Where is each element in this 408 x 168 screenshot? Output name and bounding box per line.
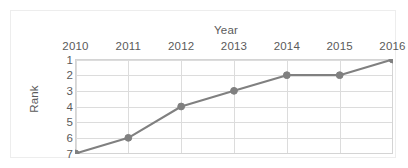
y-axis-tick-labels: 1234567 [55,51,73,161]
plot-area [75,59,393,154]
y-tick-label: 5 [67,115,73,129]
y-tick-label: 3 [67,84,73,98]
data-point-marker [75,150,79,154]
data-point-marker [389,59,393,63]
y-tick-label: 1 [67,53,73,67]
x-tick-label: 2015 [317,40,363,52]
data-point-marker [283,72,290,79]
x-axis-tick-labels: 2010201120122013201420152016 [47,40,407,56]
x-tick-label: 2011 [105,40,151,52]
x-tick-label: 2012 [158,40,204,52]
data-point-marker [231,87,238,94]
y-tick-label: 2 [67,68,73,82]
y-tick-label: 7 [67,147,73,161]
x-axis-title: Year [161,24,291,36]
data-point-marker [178,103,185,110]
x-tick-label: 2014 [264,40,310,52]
data-point-marker [336,72,343,79]
y-tick-label: 6 [67,131,73,145]
data-point-marker [125,134,132,141]
x-tick-label: 2016 [370,40,408,52]
y-tick-label: 4 [67,100,73,114]
y-axis-title: Rank [28,64,40,134]
rank-line-chart [75,59,393,154]
x-tick-label: 2013 [211,40,257,52]
chart-frame: Year 2010201120122013201420152016 Rank 1… [10,10,396,158]
